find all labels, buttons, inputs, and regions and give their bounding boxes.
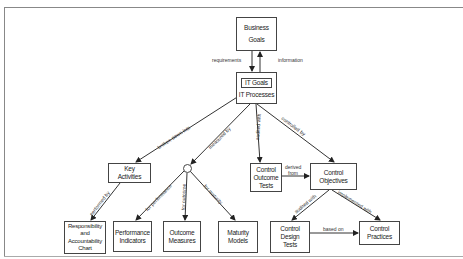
edge-label-information: information bbox=[278, 57, 303, 63]
node-label: Accountability bbox=[68, 238, 102, 246]
node-label: Design bbox=[280, 233, 299, 241]
node-control-practices: Control Practices bbox=[359, 221, 400, 245]
edge-label-requirements: requirements bbox=[212, 57, 241, 63]
node-key-activities: Key Activities bbox=[108, 163, 151, 183]
node-label: Control bbox=[324, 169, 344, 177]
edge-label-from: from bbox=[288, 170, 298, 176]
node-label: Control bbox=[370, 225, 390, 233]
node-control-objectives: Control Objectives bbox=[310, 163, 357, 190]
node-label: IT Processes bbox=[239, 91, 274, 99]
node-label: Indicators bbox=[119, 237, 145, 245]
node-label: Practices bbox=[367, 233, 392, 241]
node-label: and bbox=[80, 230, 89, 238]
node-label: Control bbox=[280, 225, 300, 233]
junction-node bbox=[183, 164, 192, 173]
it-goals-inner-box: IT Goals bbox=[241, 78, 272, 88]
node-it-processes: IT Goals IT Processes bbox=[236, 72, 277, 104]
node-label: Performance bbox=[115, 229, 150, 237]
node-control-design-tests: Control Design Tests bbox=[270, 221, 310, 253]
node-label: Objectives bbox=[319, 177, 347, 185]
node-performance-indicators: Performance Indicators bbox=[113, 221, 152, 252]
edge-label-based-on: based on bbox=[323, 226, 344, 232]
node-label: Responsibility bbox=[68, 223, 102, 231]
node-control-outcome-tests: Control Outcome Tests bbox=[250, 163, 282, 192]
node-label: Models bbox=[228, 237, 248, 245]
edge-label-for-outcome: for outcome bbox=[180, 184, 187, 211]
node-business-goals: Business Goals bbox=[236, 17, 277, 51]
node-label: Control bbox=[256, 166, 276, 174]
node-responsibility-chart: Responsibility and Accountability Chart bbox=[64, 221, 106, 254]
node-maturity-models: Maturity Models bbox=[218, 221, 258, 253]
node-label: Tests bbox=[259, 182, 273, 190]
node-label: Activities bbox=[118, 173, 142, 181]
node-label: Goals bbox=[249, 36, 265, 44]
node-label: Outcome bbox=[254, 174, 279, 182]
node-label: Key bbox=[124, 165, 135, 173]
node-label: Business bbox=[244, 24, 269, 32]
node-label: Tests bbox=[283, 241, 297, 249]
edge-controlled-by bbox=[257, 104, 334, 162]
node-label: Maturity bbox=[227, 229, 249, 237]
node-label: Chart bbox=[78, 245, 92, 253]
node-outcome-measures: Outcome Measures bbox=[163, 221, 201, 252]
node-label: Measures bbox=[169, 237, 196, 245]
node-label: Outcome bbox=[170, 229, 195, 237]
